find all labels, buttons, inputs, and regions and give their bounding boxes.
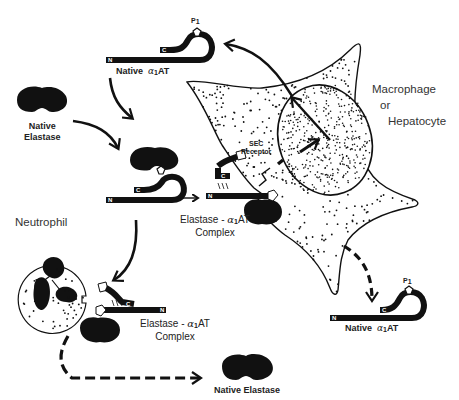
stipple-dot: [288, 164, 290, 166]
stipple-dot: [282, 126, 284, 128]
stipple-dot: [316, 115, 318, 117]
stipple-dot: [305, 164, 307, 166]
stipple-dot: [322, 160, 324, 162]
stipple-dot: [303, 140, 305, 142]
stipple-dot: [361, 118, 363, 120]
stipple-dot: [323, 73, 325, 75]
stipple-dot: [330, 70, 332, 72]
stipple-dot: [328, 125, 330, 127]
stipple-dot: [323, 78, 325, 80]
stipple-dot: [330, 174, 332, 176]
stipple-dot: [56, 275, 58, 277]
stipple-dot: [315, 132, 317, 134]
stipple-dot: [348, 158, 350, 160]
stipple-dot: [215, 124, 217, 126]
stipple-dot: [306, 95, 308, 97]
stipple-dot: [401, 200, 403, 202]
stipple-dot: [338, 103, 340, 105]
stipple-dot: [383, 194, 385, 196]
stipple-dot: [211, 122, 213, 124]
stipple-dot: [258, 173, 260, 175]
stipple-dot: [324, 127, 326, 129]
stipple-dot: [333, 139, 335, 141]
stipple-dot: [309, 101, 311, 103]
stipple-dot: [335, 90, 337, 92]
stipple-dot: [216, 103, 218, 105]
stipple-dot: [198, 89, 200, 91]
stipple-dot: [284, 121, 286, 123]
stipple-dot: [331, 117, 333, 119]
stipple-dot: [291, 154, 293, 156]
stipple-dot: [364, 116, 366, 118]
stipple-dot: [313, 255, 315, 257]
stipple-dot: [72, 317, 74, 319]
p1-label-top: P1: [191, 17, 200, 26]
stipple-dot: [354, 61, 356, 63]
stipple-dot: [317, 177, 319, 179]
stipple-dot: [291, 85, 293, 87]
stipple-dot: [364, 164, 366, 166]
stipple-dot: [56, 269, 58, 271]
stipple-dot: [288, 123, 290, 125]
stipple-dot: [347, 85, 349, 87]
stipple-dot: [288, 154, 290, 156]
stipple-dot: [347, 171, 349, 173]
stipple-dot: [346, 165, 348, 167]
stipple-dot: [332, 76, 334, 78]
stipple-dot: [272, 104, 274, 106]
stipple-dot: [293, 113, 295, 115]
stipple-dot: [304, 214, 306, 216]
stipple-dot: [354, 149, 356, 151]
macrophage-label-line1: Macrophage: [372, 82, 436, 96]
stipple-dot: [292, 169, 294, 171]
stipple-dot: [318, 251, 320, 253]
stipple-dot: [326, 88, 328, 90]
stipple-dot: [322, 173, 324, 175]
stipple-dot: [222, 94, 224, 96]
stipple-dot: [351, 126, 353, 128]
stipple-dot: [291, 148, 293, 150]
stipple-dot: [260, 162, 262, 164]
stipple-dot: [379, 200, 381, 202]
label-line-1: SEC: [241, 140, 271, 148]
stipple-dot: [318, 164, 320, 166]
stipple-dot: [321, 239, 323, 241]
stipple-dot: [355, 167, 357, 169]
stipple-dot: [303, 126, 305, 128]
stipple-dot: [66, 325, 68, 327]
stipple-dot: [220, 86, 222, 88]
stipple-dot: [312, 149, 314, 151]
stipple-dot: [285, 228, 287, 230]
stipple-dot: [33, 310, 35, 312]
stipple-dot: [326, 74, 328, 76]
stipple-dot: [356, 110, 358, 112]
stipple-dot: [246, 103, 248, 105]
stipple-dot: [265, 89, 267, 91]
stipple-dot: [361, 206, 363, 208]
stipple-dot: [369, 140, 371, 142]
stipple-dot: [335, 85, 337, 87]
stipple-dot: [34, 300, 36, 302]
stipple-dot: [365, 150, 367, 152]
stipple-dot: [337, 138, 339, 140]
stipple-dot: [351, 131, 353, 133]
c-terminal-label: C: [126, 301, 130, 307]
stipple-dot: [82, 297, 84, 299]
stipple-dot: [331, 135, 333, 137]
stipple-dot: [253, 175, 255, 177]
arrow-recycling-dashed: [344, 246, 372, 300]
stipple-dot: [249, 157, 251, 159]
stipple-dot: [329, 159, 331, 161]
stipple-dot: [336, 88, 338, 90]
c-terminal-label: C: [382, 307, 386, 313]
stipple-dot: [343, 59, 345, 61]
stipple-dot: [341, 161, 343, 163]
stipple-dot: [279, 148, 281, 150]
c-terminal-label: C: [221, 173, 225, 179]
stipple-dot: [349, 162, 351, 164]
stipple-dot: [337, 283, 339, 285]
stipple-dot: [294, 177, 296, 179]
stipple-dot: [324, 211, 326, 213]
stipple-dot: [315, 111, 317, 113]
stipple-dot: [339, 147, 341, 149]
